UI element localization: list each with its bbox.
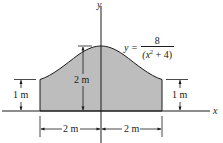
right-height-label: 1 m — [172, 90, 187, 100]
left-height-arrow-up-icon — [20, 80, 23, 84]
left-height-label: 1 m — [13, 90, 28, 100]
right-width-label: 2 m — [124, 124, 139, 134]
right-width-arrow-left-icon — [102, 128, 106, 131]
peak-height-arrow-up-icon — [82, 47, 85, 51]
equation-fraction: 8 (x2 + 4) — [141, 35, 174, 60]
diagram-canvas — [0, 0, 223, 143]
peak-height-label: 2 m — [74, 75, 89, 85]
left-width-arrow-right-icon — [97, 128, 101, 131]
left-width-arrow-left-icon — [41, 128, 45, 131]
equation-denominator: (x2 + 4) — [142, 47, 172, 60]
left-width-label: 2 m — [63, 124, 78, 134]
equation-lhs: y = — [124, 42, 138, 53]
right-height-arrow-up-icon — [179, 80, 182, 84]
denominator-suffix: + 4) — [153, 49, 172, 60]
left-height-arrow-down-icon — [20, 107, 23, 111]
x-axis-label: x — [213, 106, 217, 116]
y-axis-label: y — [97, 0, 101, 10]
right-height-arrow-down-icon — [179, 107, 182, 111]
denominator-prefix: (x — [142, 49, 150, 60]
area-under-curve-diagram: y x y = 8 (x2 + 4) 1 m 1 m 2 m 2 m 2 m — [0, 0, 223, 143]
right-width-arrow-right-icon — [158, 128, 162, 131]
curve-equation: y = 8 (x2 + 4) — [124, 35, 174, 60]
equation-numerator: 8 — [141, 35, 174, 47]
